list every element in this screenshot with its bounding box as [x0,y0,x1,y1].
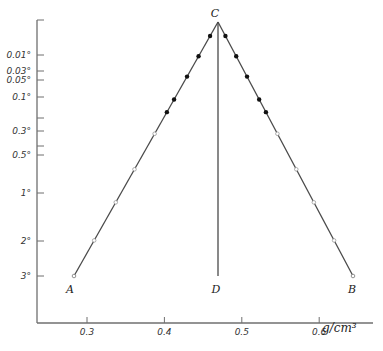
chart: 0.01°0.03°0.05°0.1°0.3°0.5°1°2°3° 0.30.4… [0,0,383,351]
y-tick-label: 3° [21,271,31,281]
y-ticks: 0.01°0.03°0.05°0.1°0.3°0.5°1°2°3° [6,20,44,281]
y-tick-label: 0.3° [12,126,31,136]
y-tick-label: 1° [21,188,31,198]
open-marker [295,168,299,172]
point-labels: ABCD [65,7,356,296]
x-tick-label: 0.3 [80,327,95,337]
filled-marker [208,34,212,38]
y-tick-label: 0.1° [12,92,31,102]
open-marker [92,239,96,243]
filled-marker [234,54,238,58]
y-tick-label: 0.01° [6,50,31,60]
y-tick-label: 2° [21,236,31,246]
point-label-B: B [347,283,356,296]
chart-markers [72,34,355,278]
x-tick-label: 0.4 [157,327,172,337]
point-label-C: C [211,7,220,20]
y-tick-label: 0.5° [12,150,31,160]
x-tick-label: 0.5 [235,327,250,337]
filled-marker [172,97,176,101]
point-label-A: A [65,283,74,296]
point-label-D: D [211,283,221,296]
filled-marker [264,110,268,114]
filled-marker [223,34,227,38]
filled-marker [196,54,200,58]
open-marker [133,168,137,172]
y-tick-label: 0.05° [6,75,31,85]
open-marker [276,132,280,136]
series-line-A-C [74,22,218,276]
filled-marker [165,110,169,114]
filled-marker [245,74,249,78]
open-marker [114,201,118,205]
open-marker [153,132,157,136]
open-marker [332,239,336,243]
endpoint-marker-B [351,274,355,278]
filled-marker [185,74,189,78]
filled-marker [257,97,261,101]
endpoint-marker-A [72,274,76,278]
series-line-C-B [218,22,353,276]
x-axis-unit-label: g/cm³ [322,321,357,335]
open-marker [312,201,316,205]
x-ticks: 0.30.40.50.6 [80,317,327,337]
chart-lines [74,22,353,276]
